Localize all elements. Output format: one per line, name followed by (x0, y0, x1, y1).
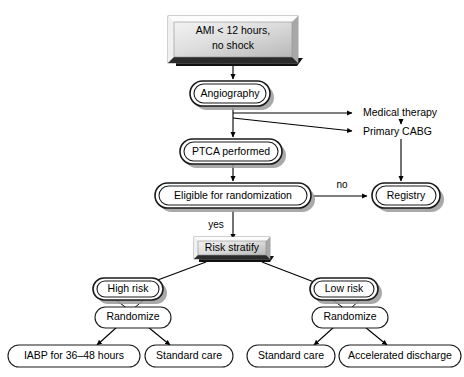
standard-care-high-label: Standard care (156, 349, 222, 361)
start-box-bevel-bottom (168, 57, 298, 63)
node-iabp[interactable]: IABP for 36–48 hours (8, 345, 140, 367)
registry-label: Registry (387, 189, 426, 201)
edge-randomize-high-to-standard-care (148, 327, 170, 345)
node-ptca-performed[interactable]: PTCA performed (180, 139, 286, 168)
node-registry[interactable]: Registry (372, 183, 444, 212)
node-risk-stratify[interactable]: Risk stratify (194, 237, 274, 262)
low-risk-label: Low risk (325, 282, 364, 294)
flowchart-canvas: no yes AMI < 12 hours, no shock Angiogra… (0, 0, 464, 377)
node-standard-care-low[interactable]: Standard care (247, 345, 335, 367)
risk-stratify-bevel-bottom (194, 255, 270, 259)
edge-label-no: no (336, 179, 348, 190)
node-low-risk[interactable]: Low risk (310, 278, 382, 304)
ptca-label: PTCA performed (192, 145, 270, 157)
edge-angiography-to-primary-cabg (233, 118, 352, 131)
high-risk-label: High risk (108, 282, 150, 294)
node-eligible-for-randomization[interactable]: Eligible for randomization (155, 183, 315, 212)
edge-randomize-high-to-iabp (97, 327, 117, 345)
flowchart-svg: no yes AMI < 12 hours, no shock Angiogra… (0, 0, 464, 377)
eligible-label: Eligible for randomization (174, 189, 292, 201)
edge-randomize-low-to-accelerated-discharge (365, 327, 387, 345)
node-angiography[interactable]: Angiography (190, 81, 274, 110)
node-standard-care-high[interactable]: Standard care (145, 345, 233, 367)
start-box-bevel-left (168, 16, 174, 63)
iabp-label: IABP for 36–48 hours (24, 349, 124, 361)
node-randomize-low[interactable]: Randomize (312, 307, 388, 328)
accelerated-discharge-label: Accelerated discharge (348, 349, 452, 361)
start-box-bevel-top (168, 16, 298, 22)
start-box-bevel-right (292, 16, 298, 63)
angiography-label: Angiography (201, 87, 261, 99)
randomize-low-label: Randomize (323, 310, 376, 322)
risk-stratify-label: Risk stratify (205, 241, 260, 253)
randomize-high-label: Randomize (106, 310, 159, 322)
node-randomize-high[interactable]: Randomize (95, 307, 171, 328)
medical-therapy-label: Medical therapy (363, 106, 438, 118)
primary-cabg-label: Primary CABG (363, 125, 432, 137)
edge-randomize-low-to-standard-care (314, 327, 334, 345)
node-accelerated-discharge[interactable]: Accelerated discharge (339, 345, 461, 367)
node-start[interactable]: AMI < 12 hours, no shock (168, 16, 303, 66)
edge-label-yes: yes (208, 219, 224, 230)
standard-care-low-label: Standard care (258, 349, 324, 361)
node-high-risk[interactable]: High risk (93, 278, 167, 304)
start-label-line2: no shock (212, 39, 255, 51)
start-label-line1: AMI < 12 hours, (196, 24, 270, 36)
